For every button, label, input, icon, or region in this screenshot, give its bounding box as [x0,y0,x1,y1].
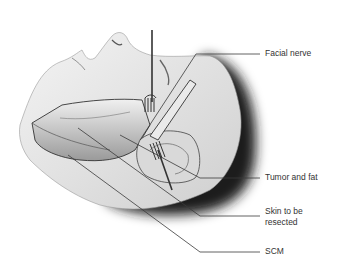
surgical-illustration [0,0,343,280]
label-tumor-and-fat: Tumor and fat [265,172,318,183]
label-skin-to-be: Skin to be [265,206,303,217]
label-resected: resected [265,217,298,228]
ear [137,131,200,183]
label-facial-nerve: Facial nerve [265,48,311,59]
label-scm: SCM [265,246,284,257]
